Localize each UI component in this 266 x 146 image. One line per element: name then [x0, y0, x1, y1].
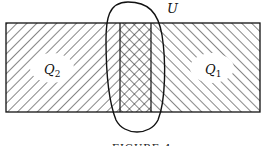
- figure-caption: FIGURE 4: [112, 142, 172, 146]
- region-overlap: [120, 23, 151, 112]
- diagram-canvas: Q2 Q1 U FIGURE 4: [0, 0, 266, 146]
- label-u: U: [167, 1, 179, 16]
- region-q2: [6, 23, 120, 112]
